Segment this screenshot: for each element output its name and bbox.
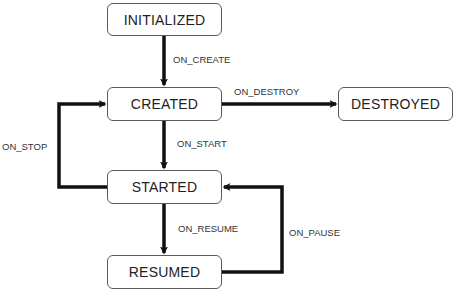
label-on-start: ON_START (177, 138, 227, 149)
state-created: CREATED (107, 87, 222, 121)
state-started: STARTED (107, 170, 222, 204)
state-destroyed: DESTROYED (338, 87, 453, 121)
state-resumed-label: RESUMED (129, 264, 200, 280)
label-on-destroy: ON_DESTROY (234, 86, 299, 97)
state-resumed: RESUMED (107, 255, 222, 289)
edge-on-stop (59, 104, 107, 187)
state-initialized: INITIALIZED (107, 3, 222, 36)
state-initialized-label: INITIALIZED (124, 12, 206, 28)
state-started-label: STARTED (132, 179, 197, 195)
label-on-create: ON_CREATE (173, 54, 230, 65)
label-on-resume: ON_RESUME (178, 223, 238, 234)
label-on-pause: ON_PAUSE (289, 227, 340, 238)
state-destroyed-label: DESTROYED (351, 96, 440, 112)
label-on-stop: ON_STOP (2, 141, 47, 152)
transition-edges (0, 0, 457, 305)
state-created-label: CREATED (131, 96, 198, 112)
